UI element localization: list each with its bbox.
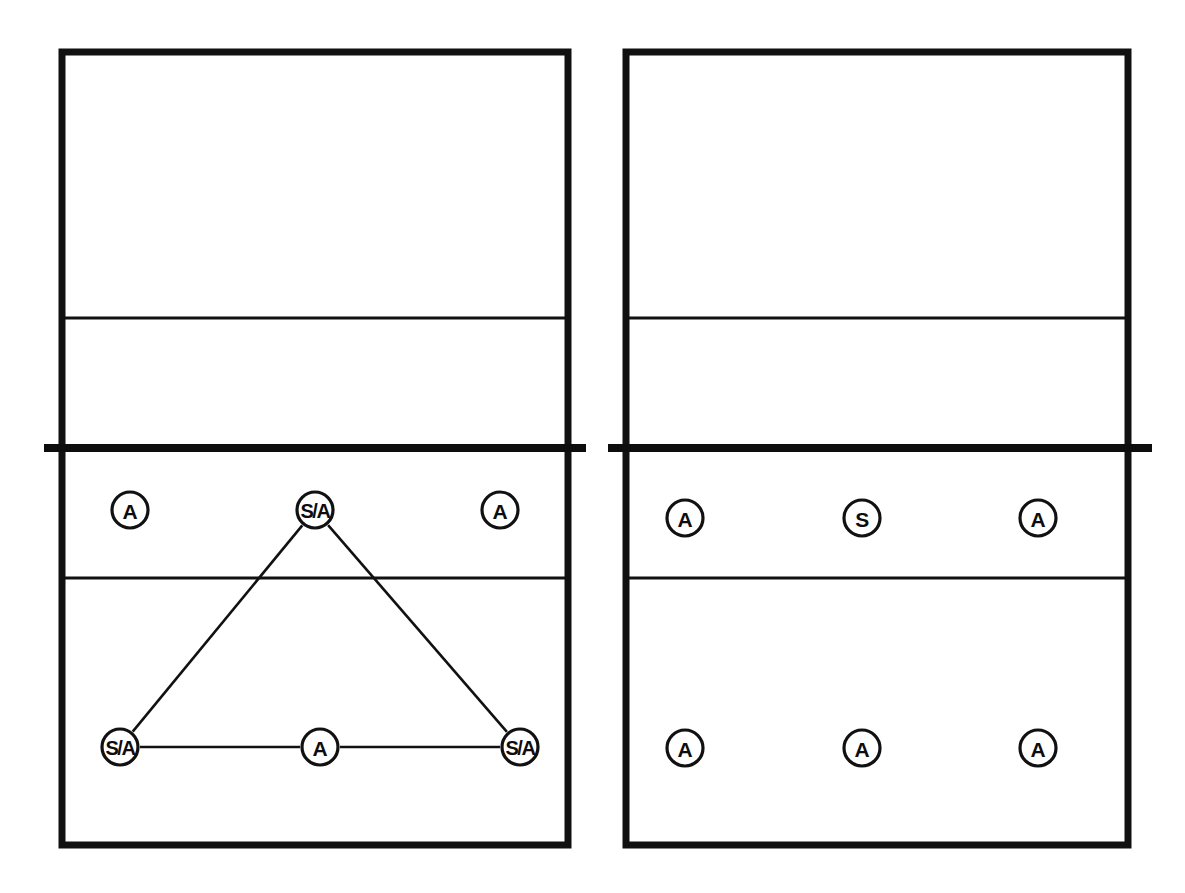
court-canvas: AS/AAS/AAS/AASAAAA — [0, 0, 1185, 893]
player-label: A — [493, 500, 508, 523]
player-marker-setter[interactable]: S — [844, 500, 880, 536]
volleyball-formation-diagram: AS/AAS/AAS/AASAAAA — [0, 0, 1185, 893]
player-label: A — [123, 500, 138, 523]
player-label: A — [313, 737, 328, 760]
player-marker-setter-attacker[interactable]: S/A — [102, 729, 138, 765]
player-label: A — [1031, 508, 1046, 531]
player-marker-setter-attacker[interactable]: S/A — [297, 492, 333, 528]
player-marker-attacker[interactable]: A — [844, 730, 880, 766]
player-label: A — [678, 508, 693, 531]
courts-layer — [44, 52, 1152, 845]
player-marker-attacker[interactable]: A — [112, 492, 148, 528]
player-label: S/A — [505, 737, 535, 759]
player-marker-attacker[interactable]: A — [302, 729, 338, 765]
player-label: A — [678, 738, 693, 761]
player-marker-attacker[interactable]: A — [667, 730, 703, 766]
player-marker-attacker[interactable]: A — [482, 492, 518, 528]
player-label: A — [855, 738, 870, 761]
player-marker-attacker[interactable]: A — [1020, 730, 1056, 766]
player-marker-attacker[interactable]: A — [1020, 500, 1056, 536]
player-marker-attacker[interactable]: A — [667, 500, 703, 536]
player-marker-setter-attacker[interactable]: S/A — [502, 729, 538, 765]
player-label: S — [855, 508, 869, 531]
player-label: S/A — [300, 500, 330, 522]
player-label: A — [1031, 738, 1046, 761]
player-label: S/A — [105, 737, 135, 759]
